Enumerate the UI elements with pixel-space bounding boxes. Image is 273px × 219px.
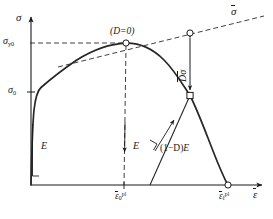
effective-stress-dashed-line: [58, 16, 264, 67]
sigma-y0-tick-label: σy0: [3, 36, 14, 47]
modulus-initial-label: E: [41, 141, 47, 151]
eps-0-pl-label: ε0pl: [115, 192, 126, 202]
effective-stress-symbol: σ: [231, 6, 236, 17]
peak-marker: [123, 40, 129, 46]
eps-f-pl-label: εfpl: [219, 192, 229, 202]
degraded-modulus-suffix: E: [183, 143, 189, 153]
x-axis-label-text: ε: [253, 189, 257, 200]
degraded-modulus-label: (1−D)E: [160, 144, 189, 154]
effective-stress-marker: [187, 30, 193, 36]
degraded-modulus-prefix: (1−D): [160, 143, 183, 153]
figure-canvas: [0, 0, 273, 219]
x-axis-label: ε: [253, 189, 257, 200]
damage-stress-label: Dσ: [178, 70, 188, 82]
eps-f-superscript: pl: [225, 191, 230, 197]
slope-angle-tick: [150, 140, 157, 150]
modulus-peak-label: E: [133, 141, 139, 151]
eps-0-superscript: pl: [122, 191, 127, 197]
sigma-0-tick-label: σ0: [8, 85, 16, 96]
damaged-point-marker: [187, 92, 193, 98]
peak-vertical-dashed-line: [124, 45, 126, 185]
sigma-0-subscript: 0: [13, 89, 16, 96]
eps-f-symbol: ε: [219, 192, 223, 202]
y-axis-label: σ: [16, 12, 21, 23]
damage-stress-symbol: Dσ: [178, 70, 188, 82]
damage-zero-label: (D=0): [110, 27, 134, 37]
damage-stress-strain-figure: σ ε σy0 σ0 (D=0) σ Dσ E E (1−D)E ε0pl εf…: [0, 0, 273, 219]
eps-0-symbol: ε: [115, 192, 119, 202]
effective-stress-label: σ: [231, 6, 236, 17]
failure-marker: [225, 182, 231, 188]
degraded-unloading-line: [150, 96, 190, 186]
stress-strain-curve: [31, 43, 228, 185]
sigma-y0-subscript: y0: [8, 40, 14, 47]
